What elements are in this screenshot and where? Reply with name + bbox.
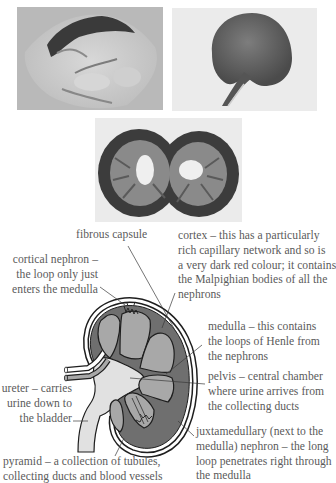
label-juxtamedullary: juxtamedullary (next to the medulla) nep… xyxy=(196,425,332,483)
label-fibrous-capsule: fibrous capsule xyxy=(76,228,147,243)
label-pyramid: pyramid – a collection of tubules, colle… xyxy=(3,455,162,483)
label-ureter: ureter – carries urine down to the bladd… xyxy=(0,382,72,426)
label-cortex: cortex – this has a particularly rich ca… xyxy=(178,229,336,303)
label-medulla: medulla – this contains the loops of Hen… xyxy=(208,320,320,364)
label-pelvis: pelvis – central chamber where urine arr… xyxy=(208,370,324,414)
label-cortical-nephron: cortical nephron – the loop only just en… xyxy=(4,253,98,297)
